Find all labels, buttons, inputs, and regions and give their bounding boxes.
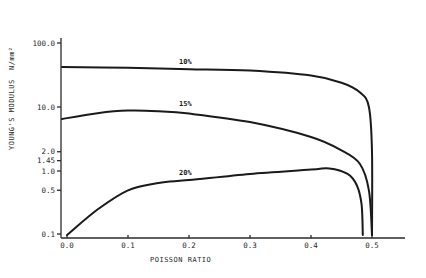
series-label: 20% xyxy=(179,169,192,177)
x-ticks: 0.00.10.20.30.40.5 xyxy=(60,235,379,250)
y-tick-label: 0.5 xyxy=(41,186,55,195)
series-labels: 10%15%20% xyxy=(179,58,192,177)
series-label: 15% xyxy=(179,100,192,108)
y-tick-label: 10.0 xyxy=(37,103,56,112)
youngs-modulus-vs-poisson-ratio-chart: 100.010.02.01.451.00.50.1 0.00.10.20.30.… xyxy=(0,0,426,278)
series-label: 10% xyxy=(179,58,192,66)
x-tick-label: 0.5 xyxy=(365,241,379,250)
curves xyxy=(62,67,372,235)
y-ticks: 100.010.02.01.451.00.50.1 xyxy=(32,39,61,239)
y-axis-title-unit: N/mm² xyxy=(8,46,16,70)
y-axis-title: YOUNG'S MODULUS N/mm² xyxy=(8,46,16,150)
y-tick-label: 1.45 xyxy=(37,156,55,165)
x-axis-title: POISSON RATIO xyxy=(150,256,211,264)
x-tick-label: 0.1 xyxy=(121,241,135,250)
x-tick-label: 0.2 xyxy=(182,241,196,250)
x-tick-label: 0.4 xyxy=(304,241,318,250)
curve-10pct xyxy=(62,67,372,235)
x-tick-label: 0.0 xyxy=(60,241,74,250)
curve-15pct xyxy=(62,110,372,235)
x-tick-label: 0.3 xyxy=(243,241,257,250)
curve-20pct xyxy=(67,168,363,235)
y-tick-label: 100.0 xyxy=(32,39,55,48)
y-tick-label: 2.0 xyxy=(41,147,55,156)
y-tick-label: 1.0 xyxy=(41,167,55,176)
y-axis-title-main: YOUNG'S MODULUS xyxy=(8,79,16,150)
y-tick-label: 0.1 xyxy=(41,230,55,239)
